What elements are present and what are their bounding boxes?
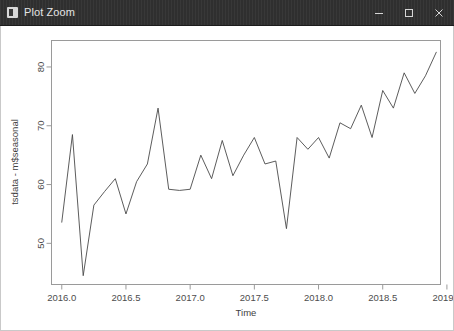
- y-tick-label: 70: [35, 120, 46, 131]
- series-line: [62, 52, 436, 275]
- y-tick-label: 60: [35, 179, 46, 190]
- maximize-button[interactable]: [394, 0, 424, 25]
- x-axis-ticks: 2016.02016.52017.02017.52018.02018.52019…: [47, 285, 453, 303]
- x-tick-label: 2017.5: [240, 292, 269, 303]
- x-tick-label: 2016.5: [111, 292, 140, 303]
- y-axis-title: tsdata - m$seasonal: [9, 119, 20, 205]
- x-tick-label: 2017.0: [176, 292, 205, 303]
- plot-zoom-window: Plot Zoom: [0, 0, 454, 331]
- x-tick-label: 2016.0: [47, 292, 76, 303]
- y-tick-label: 50: [35, 238, 46, 249]
- app-icon: [7, 7, 18, 18]
- close-button[interactable]: [424, 0, 454, 25]
- plot-canvas: 50607080 2016.02016.52017.02017.52018.02…: [0, 26, 454, 331]
- x-tick-label: 2018.5: [368, 292, 397, 303]
- x-axis-title: Time: [236, 307, 257, 318]
- y-tick-label: 80: [35, 62, 46, 73]
- window-controls: [364, 0, 454, 25]
- x-tick-label: 2018.0: [304, 292, 333, 303]
- timeseries-plot: 50607080 2016.02016.52017.02017.52018.02…: [1, 26, 453, 331]
- window-titlebar[interactable]: Plot Zoom: [0, 0, 454, 26]
- minimize-button[interactable]: [364, 0, 394, 25]
- plot-frame: [52, 41, 441, 285]
- window-title: Plot Zoom: [24, 7, 75, 18]
- x-tick-label: 2019.0: [432, 292, 453, 303]
- y-axis-ticks: 50607080: [35, 62, 52, 249]
